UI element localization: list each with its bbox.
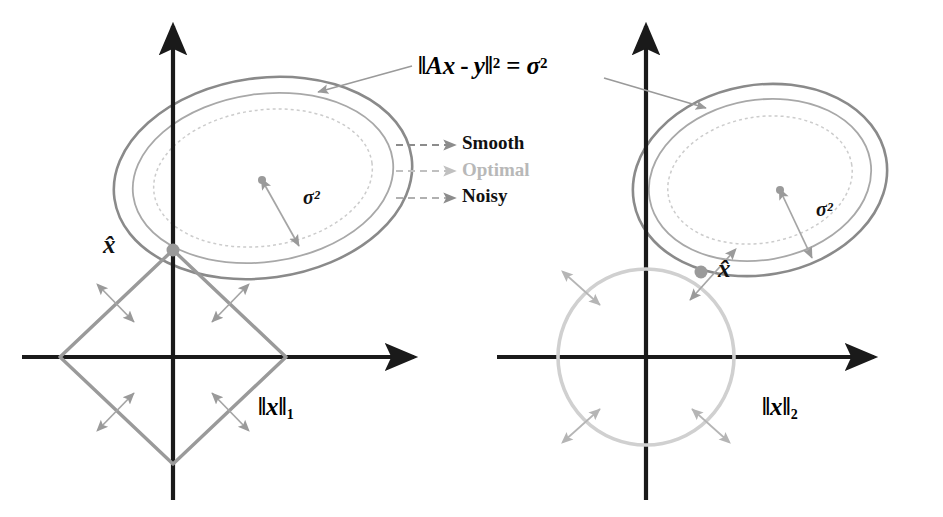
l1-norm-label: ‖x‖1 xyxy=(258,393,294,423)
l2-solution-point xyxy=(695,266,708,279)
l2-norm-bars-close: ‖ xyxy=(783,393,791,420)
equation-matrix-A: A xyxy=(426,52,443,79)
l2-norm-subscript: 2 xyxy=(791,407,798,422)
l1-solution-point xyxy=(167,244,180,257)
legend-item-smooth: Smooth xyxy=(462,130,530,156)
equation-minus: - xyxy=(455,52,473,79)
l1-solution-label: x̂ xyxy=(103,231,116,259)
legend-item-optimal: Optimal xyxy=(462,156,530,183)
equation-norm-close: ‖ xyxy=(485,52,493,79)
equation-norm-open: ‖ xyxy=(418,52,426,79)
equation-sigma-exponent: 2 xyxy=(540,55,548,71)
l2-norm-bars-open: ‖ xyxy=(762,393,770,420)
legend-item-noisy: Noisy xyxy=(462,183,530,209)
l2-contour-center-dot xyxy=(776,186,784,194)
l2-solution-label: x̂ xyxy=(718,255,731,283)
l1-norm-variable: x xyxy=(266,393,279,420)
equation-vector-y: y xyxy=(474,52,485,79)
l1-norm-subscript: 1 xyxy=(287,407,294,422)
l2-sigma-label: σ² xyxy=(816,198,833,221)
figure-root: ‖Ax-y‖2=σ2 Smooth Optimal Noisy σ² x̂ ‖x… xyxy=(0,0,943,517)
legend: Smooth Optimal Noisy xyxy=(462,130,530,209)
l1-norm-bars-open: ‖ xyxy=(258,393,266,420)
l1-norm-bars-close: ‖ xyxy=(279,393,287,420)
equation-equals: = xyxy=(500,52,526,79)
l1-sigma-label: σ² xyxy=(303,186,320,209)
l2-norm-variable: x xyxy=(770,393,783,420)
l2-norm-label: ‖x‖2 xyxy=(762,393,798,423)
equation-vector-x: x xyxy=(443,52,456,79)
equation-label: ‖Ax-y‖2=σ2 xyxy=(418,52,548,80)
equation-sigma: σ xyxy=(527,52,540,79)
l1-contour-center-dot xyxy=(258,176,266,184)
